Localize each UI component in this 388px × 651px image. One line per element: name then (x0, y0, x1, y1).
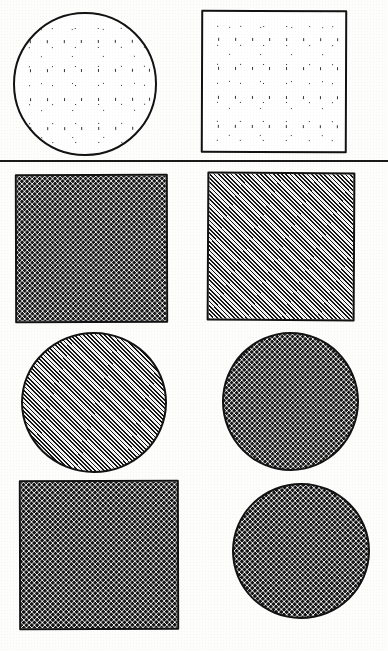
row1-circle-stipple (13, 12, 158, 157)
horizontal-rule (0, 160, 388, 162)
row2-square-hatch (207, 172, 356, 322)
row4-square-dots-dense (19, 480, 179, 630)
row4-circle-dots-dense (232, 483, 371, 620)
row3-circle-dots (222, 332, 360, 472)
row2-square-dots (15, 174, 168, 323)
row3-circle-hatch (21, 332, 167, 474)
row1-square-stipple (201, 10, 347, 154)
figure-page (0, 0, 388, 651)
cropped-caption-remnant (130, 0, 260, 4)
